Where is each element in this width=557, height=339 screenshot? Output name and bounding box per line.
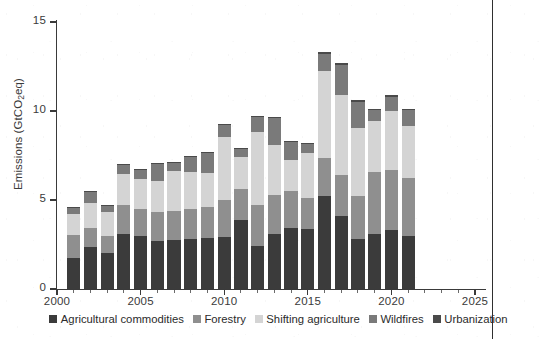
x-tick-minor-2022: [424, 290, 425, 293]
bar-segment-2017-agricultural-commodities: [335, 216, 348, 289]
plot-area: [57, 22, 475, 289]
y-tick-label-0: 0: [6, 281, 46, 293]
bar-segment-2015-wildfires: [301, 144, 314, 153]
x-tick-minor-2016: [324, 290, 325, 293]
x-tick-minor-2017: [341, 290, 342, 293]
bar-segment-2018-shifting-agriculture: [351, 128, 364, 197]
bar-segment-2013-shifting-agriculture: [268, 145, 281, 195]
bar-segment-2021-forestry: [402, 178, 415, 236]
x-tick-2025: [474, 290, 475, 295]
legend-swatch-icon: [433, 315, 441, 323]
bar-segment-2009-wildfires: [201, 153, 214, 173]
x-tick-minor-2019: [374, 290, 375, 293]
bar-segment-2004-wildfires: [117, 165, 130, 174]
bar-segment-2002-wildfires: [84, 192, 97, 203]
bar-segment-2009-shifting-agriculture: [201, 173, 214, 207]
bar-2020: [385, 95, 398, 289]
x-tick-minor-2023: [441, 290, 442, 293]
bar-segment-2003-urbanization: [101, 205, 114, 206]
x-tick-minor-2009: [207, 290, 208, 293]
bar-segment-2005-shifting-agriculture: [134, 179, 147, 209]
legend-swatch-icon: [255, 315, 263, 323]
legend-swatch-icon: [369, 315, 377, 323]
bar-2014: [284, 141, 297, 289]
bar-segment-2009-agricultural-commodities: [201, 238, 214, 289]
legend-item-wildfires: Wildfires: [369, 313, 424, 325]
bar-segment-2008-wildfires: [184, 157, 197, 171]
bar-segment-2015-urbanization: [301, 143, 314, 144]
x-tick-minor-2011: [240, 290, 241, 293]
bar-segment-2008-urbanization: [184, 156, 197, 157]
bar-segment-2001-wildfires: [67, 208, 80, 214]
bar-segment-2011-wildfires: [234, 148, 247, 157]
bar-segment-2008-agricultural-commodities: [184, 239, 197, 289]
x-tick-minor-2002: [90, 290, 91, 293]
bar-segment-2007-urbanization: [167, 162, 180, 163]
legend-item-shifting-agriculture: Shifting agriculture: [255, 313, 360, 325]
bar-segment-2002-shifting-agriculture: [84, 203, 97, 229]
bar-segment-2001-urbanization: [67, 207, 80, 208]
bar-segment-2012-wildfires: [251, 117, 264, 132]
bar-segment-2007-wildfires: [167, 163, 180, 171]
bar-segment-2014-urbanization: [284, 141, 297, 142]
bar-segment-2016-forestry: [318, 158, 331, 195]
bar-segment-2019-agricultural-commodities: [368, 234, 381, 289]
x-tick-minor-2024: [458, 290, 459, 293]
y-tick-label-15: 15: [6, 14, 46, 26]
bar-2003: [101, 205, 114, 289]
bar-segment-2018-agricultural-commodities: [351, 239, 364, 289]
bar-segment-2018-urbanization: [351, 100, 364, 102]
x-tick-minor-2012: [257, 290, 258, 293]
y-tick-label-10: 10: [6, 103, 46, 115]
bar-2016: [318, 52, 331, 289]
y-tick-label-5: 5: [6, 192, 46, 204]
bar-segment-2006-urbanization: [151, 163, 164, 164]
y-tick-5: [50, 199, 56, 200]
bar-segment-2011-agricultural-commodities: [234, 220, 247, 289]
bar-segment-2012-urbanization: [251, 116, 264, 117]
bar-segment-2005-wildfires: [134, 170, 147, 179]
bar-segment-2003-agricultural-commodities: [101, 253, 114, 289]
x-tick-minor-2008: [190, 290, 191, 293]
bar-segment-2011-shifting-agriculture: [234, 157, 247, 189]
bar-segment-2009-forestry: [201, 207, 214, 238]
bar-segment-2021-wildfires: [402, 110, 415, 126]
x-tick-label-2000: 2000: [34, 295, 80, 307]
x-tick-2005: [140, 290, 141, 295]
legend-label: Urbanization: [444, 313, 507, 325]
legend-label: Shifting agriculture: [266, 313, 360, 325]
y-tick-10: [50, 110, 56, 111]
bar-segment-2002-forestry: [84, 228, 97, 247]
bar-segment-2011-forestry: [234, 189, 247, 219]
bar-2021: [402, 109, 415, 289]
x-tick-label-2005: 2005: [118, 295, 164, 307]
bar-segment-2014-forestry: [284, 191, 297, 228]
bar-segment-2014-shifting-agriculture: [284, 160, 297, 191]
bar-segment-2014-agricultural-commodities: [284, 228, 297, 289]
x-tick-minor-2018: [357, 290, 358, 293]
y-axis-label-tail: eq): [12, 78, 24, 95]
bar-segment-2013-agricultural-commodities: [268, 234, 281, 289]
bar-segment-2019-urbanization: [368, 109, 381, 110]
bar-2007: [167, 162, 180, 289]
bar-2001: [67, 207, 80, 289]
legend-item-agricultural-commodities: Agricultural commodities: [49, 313, 184, 325]
x-tick-minor-2001: [73, 290, 74, 293]
bar-segment-2018-forestry: [351, 196, 364, 239]
bar-2009: [201, 152, 214, 289]
bar-segment-2017-urbanization: [335, 63, 348, 65]
bar-segment-2004-agricultural-commodities: [117, 234, 130, 289]
legend-label: Wildfires: [380, 313, 423, 325]
bar-2005: [134, 169, 147, 289]
legend-swatch-icon: [49, 315, 57, 323]
chart-legend: Agricultural commoditiesForestryShifting…: [0, 313, 557, 325]
legend-item-urbanization: Urbanization: [433, 313, 508, 325]
bar-segment-2019-wildfires: [368, 110, 381, 121]
x-tick-minor-2003: [107, 290, 108, 293]
bar-segment-2002-agricultural-commodities: [84, 247, 97, 289]
x-tick-minor-2006: [157, 290, 158, 293]
bar-segment-2016-shifting-agriculture: [318, 71, 331, 158]
bar-segment-2013-forestry: [268, 195, 281, 234]
bar-segment-2004-urbanization: [117, 164, 130, 165]
bar-segment-2006-shifting-agriculture: [151, 181, 164, 212]
